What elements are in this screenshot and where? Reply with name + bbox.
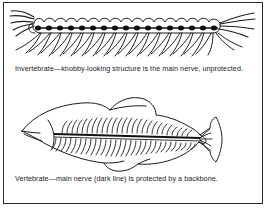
dorsal-fin-base (110, 106, 146, 110)
tail-cerci (218, 13, 255, 37)
pelvic-fin (104, 161, 124, 163)
figure-frame: Invertebrate—knobby-looking structure is… (3, 2, 263, 204)
fish-jaw (24, 134, 42, 141)
panel-vertebrate: Vertebrate—main nerve (dark line) is pro… (4, 93, 262, 203)
fish-body-outline (22, 98, 222, 172)
nerve-ganglion-knobs (35, 26, 217, 31)
panel-invertebrate: Invertebrate—knobby-looking structure is… (4, 3, 262, 93)
caption-vertebrate: Vertebrate—main nerve (dark line) is pro… (15, 175, 253, 184)
caption-invertebrate: Invertebrate—knobby-looking structure is… (15, 65, 253, 74)
backbone-and-nerve (51, 118, 212, 156)
anal-fin (138, 159, 150, 164)
fish-skeleton-line-drawing (4, 93, 262, 175)
legs (16, 33, 242, 56)
main-nerve-cord (35, 26, 218, 31)
body-dorsal-outline (34, 18, 220, 23)
centipede-line-drawing (4, 3, 262, 65)
gill-arc (48, 120, 54, 149)
